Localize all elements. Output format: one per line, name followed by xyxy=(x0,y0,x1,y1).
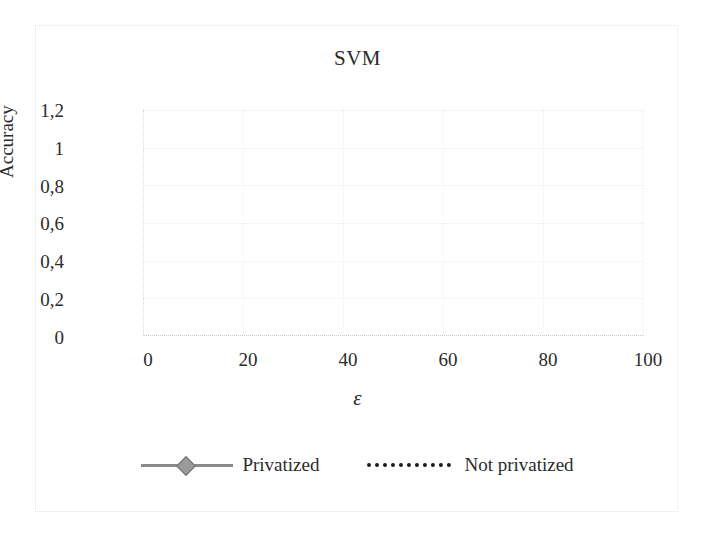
y-tick-label: 1,2 xyxy=(4,101,64,120)
gridline-horizontal xyxy=(143,261,643,262)
gridline-vertical xyxy=(243,110,244,336)
x-tick-label: 0 xyxy=(113,350,183,369)
plot-area xyxy=(143,110,643,336)
x-axis-line xyxy=(143,335,643,336)
legend-item-not-privatized: Not privatized xyxy=(363,455,573,474)
y-tick-label: 0,4 xyxy=(4,252,64,271)
legend-item-privatized: Privatized xyxy=(141,455,319,474)
y-tick-label: 0,8 xyxy=(4,177,64,196)
x-tick-label: 80 xyxy=(513,350,583,369)
chart-legend: Privatized Not privatized xyxy=(0,455,715,474)
y-axis-line xyxy=(143,110,144,336)
x-tick-label: 20 xyxy=(213,350,283,369)
legend-swatch-dotted-line-icon xyxy=(363,457,455,473)
x-tick-label: 60 xyxy=(413,350,483,369)
x-axis-label: ε xyxy=(0,386,715,411)
legend-label: Not privatized xyxy=(464,455,573,474)
gridline-horizontal xyxy=(143,148,643,149)
gridline-horizontal xyxy=(143,185,643,186)
y-tick-label: 0 xyxy=(4,328,64,347)
x-tick-label: 100 xyxy=(613,350,683,369)
x-tick-label: 40 xyxy=(313,350,383,369)
y-tick-label: 0,6 xyxy=(4,214,64,233)
gridline-vertical xyxy=(443,110,444,336)
legend-swatch-line-marker-icon xyxy=(141,457,233,473)
gridline-vertical xyxy=(643,110,644,336)
chart-figure: SVM Accuracy 1,2 1 0,8 0,6 0,4 0,2 0 0 2… xyxy=(0,0,715,535)
gridline-vertical xyxy=(543,110,544,336)
gridline-horizontal xyxy=(143,298,643,299)
gridline-horizontal xyxy=(143,223,643,224)
legend-label: Privatized xyxy=(242,455,319,474)
gridline-horizontal xyxy=(143,110,643,111)
y-tick-label: 1 xyxy=(4,139,64,158)
y-tick-label: 0,2 xyxy=(4,290,64,309)
gridline-vertical xyxy=(343,110,344,336)
